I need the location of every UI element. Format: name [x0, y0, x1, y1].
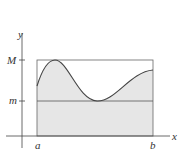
label-M: M	[6, 54, 17, 66]
label-b: b	[150, 139, 156, 150]
label-m: m	[9, 94, 17, 106]
area-diagram: y x M m a b	[0, 0, 184, 150]
x-axis-label: x	[171, 130, 177, 142]
y-axis-label: y	[17, 28, 23, 40]
label-a: a	[35, 139, 41, 150]
area-under-curve	[37, 60, 153, 136]
